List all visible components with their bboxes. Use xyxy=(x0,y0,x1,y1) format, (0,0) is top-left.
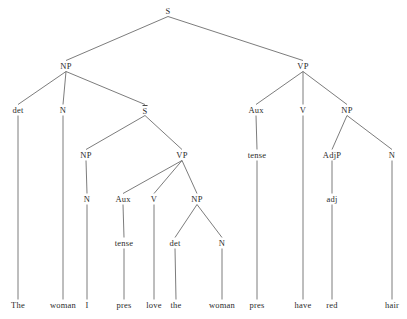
tree-edge xyxy=(175,205,197,238)
terminal-node-w-i: I xyxy=(85,301,88,310)
tree-node-vp-main: VP xyxy=(297,62,308,71)
tree-node-aux-main: Aux xyxy=(248,106,263,115)
tree-edge xyxy=(154,161,182,194)
tree-node-tense-main: tense xyxy=(248,151,266,160)
terminal-node-w-woman-2: woman xyxy=(209,301,235,310)
terminal-node-w-red: red xyxy=(326,301,337,310)
tree-edge xyxy=(175,249,176,300)
terminal-node-w-love: love xyxy=(146,301,161,310)
tree-node-vp-embed: VP xyxy=(176,151,187,160)
tree-node-det-2: det xyxy=(170,239,181,248)
tree-edge xyxy=(123,205,124,238)
tree-node-adj: adj xyxy=(327,195,338,204)
terminal-node-w-the-1: The xyxy=(11,301,25,310)
tree-edge xyxy=(347,116,392,150)
tree-edge xyxy=(182,161,197,194)
tree-edges-layer xyxy=(0,0,407,319)
terminal-node-w-pres-1: pres xyxy=(117,301,132,310)
tree-edge xyxy=(145,116,182,150)
terminal-node-w-woman-1: woman xyxy=(50,301,76,310)
tree-edge xyxy=(256,116,257,150)
tree-node-n-hair: N xyxy=(389,151,395,160)
tree-node-v-embed: V xyxy=(151,195,157,204)
tree-node-np-embed: NP xyxy=(80,151,91,160)
tree-edge xyxy=(197,205,222,238)
tree-node-np-obj-main: NP xyxy=(341,106,352,115)
tree-node-aux-embed: Aux xyxy=(115,195,130,204)
terminal-node-w-pres-2: pres xyxy=(250,301,265,310)
tree-node-det-1: det xyxy=(13,106,24,115)
tree-node-np-obj-embed: NP xyxy=(191,195,202,204)
tree-edge xyxy=(332,116,347,150)
terminal-node-w-hair: hair xyxy=(385,301,399,310)
tree-node-n-2: N xyxy=(219,239,225,248)
tree-node-v-main: V xyxy=(300,106,306,115)
tree-edge xyxy=(66,72,145,105)
tree-edge xyxy=(86,161,87,194)
tree-node-s-root: S xyxy=(166,7,171,16)
tree-edge xyxy=(66,17,168,61)
tree-edge xyxy=(303,72,347,105)
tree-node-adjp: AdjP xyxy=(323,151,341,160)
tree-edge xyxy=(63,72,66,105)
terminal-node-w-the-2: the xyxy=(171,301,182,310)
tree-edge xyxy=(86,116,145,150)
tree-edge xyxy=(18,72,66,105)
terminal-node-w-have: have xyxy=(295,301,312,310)
tree-edge xyxy=(123,161,182,194)
tree-edge xyxy=(168,17,303,61)
tree-node-np-subj: NP xyxy=(60,62,71,71)
syntax-tree-diagram: SNPVPdetNSAuxVNPNPVPtenseAdjPNNAuxVNPadj… xyxy=(0,0,407,319)
tree-node-tense-embed: tense xyxy=(115,239,133,248)
tree-node-n-embed-subj: N xyxy=(84,195,90,204)
tree-node-sbar: S xyxy=(143,105,148,115)
tree-edge xyxy=(256,72,303,105)
tree-node-n-1: N xyxy=(60,106,66,115)
